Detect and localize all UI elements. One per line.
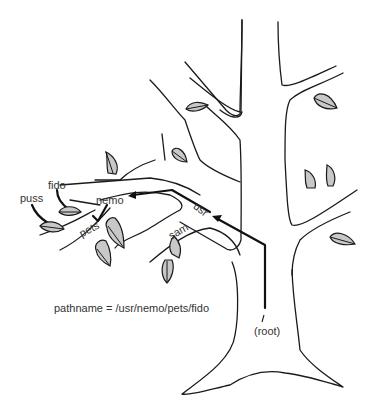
label-fido: fido <box>48 180 66 191</box>
branch-upper-left <box>150 80 240 182</box>
branch-sam-lower <box>150 228 240 262</box>
trunk-right-outline <box>278 22 336 86</box>
label-root: (root) <box>254 326 280 337</box>
tree-diagram <box>0 0 373 411</box>
label-puss: puss <box>20 193 43 204</box>
leaf-group <box>40 94 355 283</box>
label-nemo: nemo <box>96 195 124 206</box>
trunk-outline-left-main <box>185 20 242 116</box>
pathname-caption: pathname = /usr/nemo/pets/fido <box>54 303 209 314</box>
root-tick <box>262 315 264 322</box>
arrow-root-to-usr <box>216 218 265 308</box>
arrow-puss <box>32 205 48 223</box>
arrowhead-nemo <box>128 191 136 199</box>
branch-usr-top <box>60 178 200 195</box>
branch-mid <box>95 134 165 180</box>
